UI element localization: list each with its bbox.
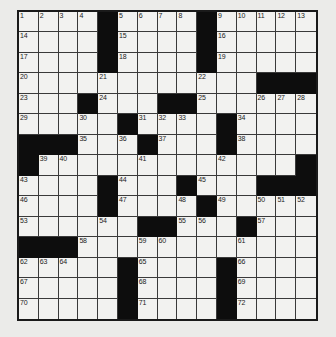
crossword-cell[interactable] xyxy=(158,278,178,298)
crossword-cell[interactable] xyxy=(59,114,79,134)
crossword-cell[interactable]: 34 xyxy=(237,114,257,134)
crossword-cell[interactable]: 47 xyxy=(118,196,138,216)
crossword-cell[interactable]: 62 xyxy=(19,258,39,278)
crossword-cell[interactable] xyxy=(237,94,257,114)
crossword-cell[interactable]: 14 xyxy=(19,32,39,52)
crossword-cell[interactable] xyxy=(98,135,118,155)
crossword-cell[interactable] xyxy=(197,135,217,155)
crossword-cell[interactable] xyxy=(237,176,257,196)
crossword-cell[interactable] xyxy=(237,53,257,73)
crossword-cell[interactable]: 26 xyxy=(257,94,277,114)
crossword-cell[interactable] xyxy=(158,155,178,175)
crossword-cell[interactable] xyxy=(39,32,59,52)
crossword-cell[interactable] xyxy=(78,217,98,237)
crossword-cell[interactable] xyxy=(158,196,178,216)
crossword-cell[interactable] xyxy=(257,32,277,52)
crossword-cell[interactable] xyxy=(177,32,197,52)
crossword-cell[interactable] xyxy=(78,53,98,73)
crossword-cell[interactable]: 32 xyxy=(158,114,178,134)
crossword-cell[interactable] xyxy=(158,176,178,196)
crossword-cell[interactable] xyxy=(276,278,296,298)
crossword-cell[interactable] xyxy=(158,53,178,73)
crossword-cell[interactable] xyxy=(276,32,296,52)
crossword-cell[interactable] xyxy=(138,176,158,196)
crossword-cell[interactable]: 21 xyxy=(98,73,118,93)
crossword-cell[interactable]: 56 xyxy=(197,217,217,237)
crossword-cell[interactable] xyxy=(39,114,59,134)
crossword-cell[interactable] xyxy=(276,155,296,175)
crossword-cell[interactable] xyxy=(118,155,138,175)
crossword-cell[interactable] xyxy=(237,73,257,93)
crossword-cell[interactable] xyxy=(237,32,257,52)
crossword-cell[interactable] xyxy=(197,155,217,175)
crossword-cell[interactable]: 16 xyxy=(217,32,237,52)
crossword-cell[interactable] xyxy=(59,73,79,93)
crossword-cell[interactable]: 42 xyxy=(217,155,237,175)
crossword-cell[interactable] xyxy=(276,135,296,155)
crossword-cell[interactable]: 2 xyxy=(39,12,59,32)
crossword-cell[interactable] xyxy=(39,299,59,319)
crossword-cell[interactable]: 23 xyxy=(19,94,39,114)
crossword-cell[interactable]: 3 xyxy=(59,12,79,32)
crossword-cell[interactable] xyxy=(296,32,316,52)
crossword-cell[interactable]: 37 xyxy=(158,135,178,155)
crossword-cell[interactable] xyxy=(98,258,118,278)
crossword-cell[interactable] xyxy=(158,32,178,52)
crossword-cell[interactable] xyxy=(78,32,98,52)
crossword-cell[interactable] xyxy=(158,258,178,278)
crossword-cell[interactable] xyxy=(276,299,296,319)
crossword-cell[interactable] xyxy=(177,53,197,73)
crossword-cell[interactable]: 12 xyxy=(276,12,296,32)
crossword-cell[interactable]: 53 xyxy=(19,217,39,237)
crossword-cell[interactable]: 59 xyxy=(138,237,158,257)
crossword-cell[interactable] xyxy=(39,73,59,93)
crossword-cell[interactable] xyxy=(197,278,217,298)
crossword-cell[interactable]: 35 xyxy=(78,135,98,155)
crossword-cell[interactable]: 48 xyxy=(177,196,197,216)
crossword-cell[interactable]: 72 xyxy=(237,299,257,319)
crossword-cell[interactable] xyxy=(98,299,118,319)
crossword-cell[interactable]: 55 xyxy=(177,217,197,237)
crossword-cell[interactable]: 63 xyxy=(39,258,59,278)
crossword-cell[interactable] xyxy=(177,135,197,155)
crossword-cell[interactable] xyxy=(197,114,217,134)
crossword-cell[interactable] xyxy=(39,53,59,73)
crossword-cell[interactable]: 46 xyxy=(19,196,39,216)
crossword-cell[interactable] xyxy=(78,73,98,93)
crossword-cell[interactable]: 52 xyxy=(296,196,316,216)
crossword-cell[interactable]: 30 xyxy=(78,114,98,134)
crossword-cell[interactable] xyxy=(257,258,277,278)
crossword-cell[interactable] xyxy=(78,176,98,196)
crossword-cell[interactable]: 33 xyxy=(177,114,197,134)
crossword-cell[interactable]: 39 xyxy=(39,155,59,175)
crossword-cell[interactable]: 67 xyxy=(19,278,39,298)
crossword-cell[interactable]: 1 xyxy=(19,12,39,32)
crossword-cell[interactable]: 69 xyxy=(237,278,257,298)
crossword-cell[interactable] xyxy=(296,217,316,237)
crossword-cell[interactable] xyxy=(257,114,277,134)
crossword-cell[interactable] xyxy=(217,94,237,114)
crossword-cell[interactable] xyxy=(197,299,217,319)
crossword-cell[interactable] xyxy=(257,155,277,175)
crossword-cell[interactable] xyxy=(39,176,59,196)
crossword-cell[interactable] xyxy=(296,53,316,73)
crossword-cell[interactable] xyxy=(217,73,237,93)
crossword-cell[interactable]: 61 xyxy=(237,237,257,257)
crossword-cell[interactable]: 58 xyxy=(78,237,98,257)
crossword-cell[interactable]: 20 xyxy=(19,73,39,93)
crossword-cell[interactable] xyxy=(78,155,98,175)
crossword-cell[interactable]: 6 xyxy=(138,12,158,32)
crossword-cell[interactable]: 50 xyxy=(257,196,277,216)
crossword-cell[interactable]: 38 xyxy=(237,135,257,155)
crossword-cell[interactable]: 45 xyxy=(197,176,217,196)
crossword-cell[interactable] xyxy=(257,53,277,73)
crossword-cell[interactable]: 43 xyxy=(19,176,39,196)
crossword-cell[interactable] xyxy=(276,258,296,278)
crossword-cell[interactable] xyxy=(59,94,79,114)
crossword-cell[interactable] xyxy=(217,217,237,237)
crossword-cell[interactable] xyxy=(177,258,197,278)
crossword-cell[interactable]: 10 xyxy=(237,12,257,32)
crossword-cell[interactable] xyxy=(237,196,257,216)
crossword-cell[interactable] xyxy=(158,299,178,319)
crossword-cell[interactable]: 70 xyxy=(19,299,39,319)
